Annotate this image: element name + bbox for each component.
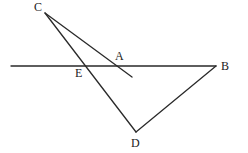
point-label-a: A bbox=[115, 49, 124, 63]
point-label-c: C bbox=[34, 0, 42, 14]
point-label-b: B bbox=[221, 59, 229, 73]
point-label-e: E bbox=[75, 66, 82, 80]
point-label-d: D bbox=[131, 136, 140, 150]
segment-c-d bbox=[45, 13, 136, 132]
geometry-diagram: C A E B D bbox=[0, 0, 248, 153]
segment-b-d bbox=[136, 66, 216, 132]
segment-c-a bbox=[45, 13, 132, 77]
